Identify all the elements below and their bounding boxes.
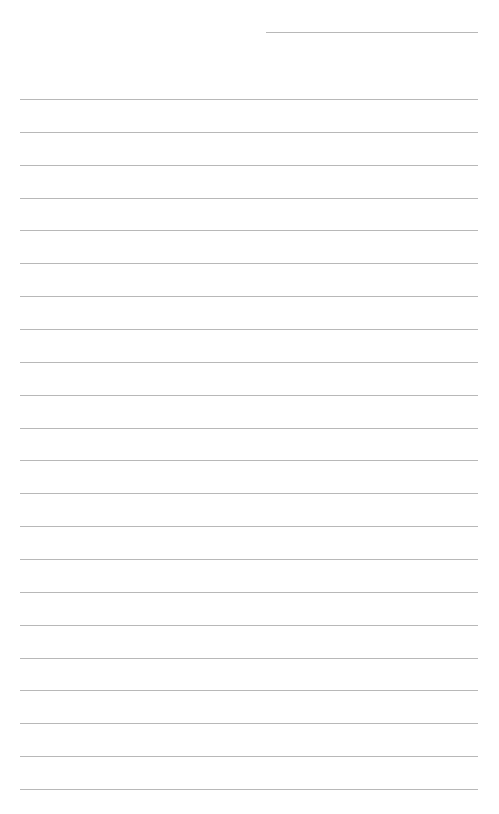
ruled-line <box>20 362 478 363</box>
ruled-line <box>20 230 478 231</box>
ruled-line <box>20 493 478 494</box>
ruled-line <box>20 329 478 330</box>
ruled-line <box>20 296 478 297</box>
ruled-line <box>20 592 478 593</box>
ruled-line <box>20 165 478 166</box>
ruled-line <box>20 198 478 199</box>
ruled-line <box>20 132 478 133</box>
ruled-line <box>20 789 478 790</box>
ruled-line <box>20 263 478 264</box>
ruled-line <box>20 526 478 527</box>
ruled-line <box>20 658 478 659</box>
ruled-line <box>20 395 478 396</box>
ruled-line <box>20 99 478 100</box>
header-blank-line <box>266 32 478 33</box>
ruled-line <box>20 625 478 626</box>
ruled-line <box>20 756 478 757</box>
ruled-line <box>20 723 478 724</box>
ruled-line <box>20 460 478 461</box>
ruled-line <box>20 428 478 429</box>
ruled-line <box>20 559 478 560</box>
ruled-line <box>20 690 478 691</box>
